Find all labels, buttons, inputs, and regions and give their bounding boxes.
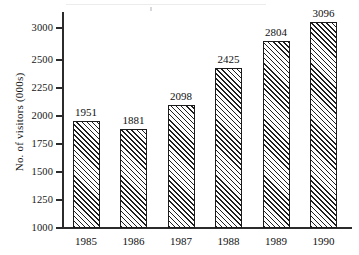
bar-1988 [215,68,242,228]
bar-value-label-1989: 2804 [251,27,301,38]
bar-1990 [310,22,337,228]
x-axis-tick-label-1988: 1988 [204,236,254,247]
bar-series: 1951198518811986209819872425198828041989… [0,0,359,255]
bar-chart-figure: No. of visitors (000s) 30002500225020001… [0,0,359,255]
bar-1985 [73,121,100,228]
x-axis-tick-label-1987: 1987 [156,236,206,247]
bar-1987 [168,105,195,228]
x-axis-tick-label-1986: 1986 [109,236,159,247]
bar-value-label-1988: 2425 [204,54,254,65]
bar-value-label-1986: 1881 [109,115,159,126]
x-axis-tick-label-1985: 1985 [61,236,111,247]
x-axis-tick-label-1990: 1990 [299,236,349,247]
bar-value-label-1985: 1951 [61,107,111,118]
bar-value-label-1990: 3096 [299,8,349,19]
bar-1989 [263,41,290,228]
bar-1986 [120,129,147,228]
bar-value-label-1987: 2098 [156,91,206,102]
x-axis-tick-label-1989: 1989 [251,236,301,247]
